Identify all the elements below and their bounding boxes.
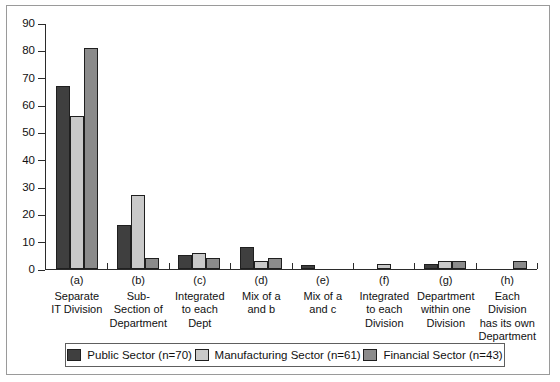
bar: [513, 261, 527, 269]
x-axis-label-code: (f): [354, 274, 416, 288]
y-axis-tick: [38, 242, 45, 243]
y-axis-tick-label: 30: [22, 182, 35, 194]
x-axis-label-line: Integrated: [169, 290, 231, 304]
bar-group: [353, 24, 414, 269]
bar: [452, 261, 466, 269]
x-axis-tick: [537, 263, 538, 269]
bar: [377, 264, 391, 269]
x-axis-label-code: (e): [292, 274, 354, 288]
y-axis-tick-label: 50: [22, 128, 35, 140]
chart-legend: Public Sector (n=70)Manufacturing Sector…: [65, 343, 505, 367]
bar-group: [292, 24, 353, 269]
x-axis-label-line: Each: [477, 290, 539, 304]
x-axis-label-line: Section of: [108, 303, 170, 317]
bar: [145, 258, 159, 269]
y-axis-tick-label: 20: [22, 210, 35, 222]
x-axis-label-line: to each: [354, 303, 416, 317]
y-axis-tick: [38, 24, 45, 25]
x-axis-label-code: (c): [169, 274, 231, 288]
legend-swatch: [195, 349, 209, 361]
x-axis-tick: [107, 263, 108, 269]
y-axis-tick: [38, 106, 45, 107]
bar: [84, 48, 98, 269]
x-axis-label-line: Department: [477, 330, 539, 344]
y-axis-tick: [38, 78, 45, 79]
x-axis-label-line: Division: [477, 303, 539, 317]
x-axis-tick: [230, 263, 231, 269]
bar-group: [414, 24, 475, 269]
bar-group: [476, 24, 537, 269]
y-axis-tick-label: 90: [22, 18, 35, 30]
legend-swatch: [363, 349, 377, 361]
x-axis-label: (e)Mix of aand c: [292, 274, 354, 344]
y-axis-tick: [38, 215, 45, 216]
x-axis-label-code: (g): [415, 274, 477, 288]
x-axis-labels: (a)SeparateIT Division(b)Sub-Section ofD…: [46, 274, 538, 344]
legend-label: Manufacturing Sector (n=61): [215, 349, 361, 361]
x-axis-label-line: IT Division: [46, 303, 108, 317]
plot-area: 0102030405060708090: [45, 24, 537, 270]
legend-item: Public Sector (n=70): [67, 349, 192, 361]
legend-item: Manufacturing Sector (n=61): [195, 349, 361, 361]
x-axis-label-code: (b): [108, 274, 170, 288]
x-axis-tick: [476, 263, 477, 269]
x-axis-label-line: Mix of a: [292, 290, 354, 304]
x-axis-label: (c)Integratedto eachDept: [169, 274, 231, 344]
x-axis-label-code: (a): [46, 274, 108, 288]
chart-frame: 0102030405060708090 (a)SeparateIT Divisi…: [6, 5, 550, 375]
legend-item: Financial Sector (n=43): [363, 349, 502, 361]
x-axis-tick: [292, 263, 293, 269]
legend-swatch: [67, 349, 81, 361]
y-axis-tick-label: 60: [22, 100, 35, 112]
y-axis-tick-label: 10: [22, 237, 35, 249]
bar: [438, 261, 452, 269]
x-axis-label-line: and b: [231, 303, 293, 317]
bar: [178, 255, 192, 269]
x-axis-tick: [353, 263, 354, 269]
y-axis-tick: [38, 188, 45, 189]
bar: [240, 247, 254, 269]
x-axis-label-line: Separate: [46, 290, 108, 304]
bar: [131, 195, 145, 269]
y-axis-tick: [38, 51, 45, 52]
x-axis-label-line: Integrated: [354, 290, 416, 304]
bar-group: [46, 24, 107, 269]
bar: [254, 261, 268, 269]
x-axis-label-line: Department: [108, 317, 170, 331]
x-axis-label: (d)Mix of aand b: [231, 274, 293, 344]
legend-label: Financial Sector (n=43): [383, 349, 502, 361]
bar: [424, 264, 438, 269]
x-axis-label-line: Department: [415, 290, 477, 304]
x-axis-label-line: within one: [415, 303, 477, 317]
bar: [192, 253, 206, 269]
x-axis-tick: [414, 263, 415, 269]
bar-groups: [46, 24, 537, 269]
x-axis-label-line: Dept: [169, 317, 231, 331]
x-axis-tick: [169, 263, 170, 269]
bar-group: [169, 24, 230, 269]
y-axis-tick-label: 80: [22, 46, 35, 58]
x-axis-label-line: Mix of a: [231, 290, 293, 304]
x-axis-label-line: and c: [292, 303, 354, 317]
bar: [301, 265, 315, 269]
bar-group: [107, 24, 168, 269]
bar: [56, 86, 70, 269]
x-axis-label-line: Division: [415, 317, 477, 331]
y-axis-tick-label: 40: [22, 155, 35, 167]
y-axis-tick-label: 0: [29, 264, 35, 276]
bar: [70, 116, 84, 269]
bar-group: [230, 24, 291, 269]
y-axis-tick: [38, 160, 45, 161]
x-axis-label: (g)Departmentwithin oneDivision: [415, 274, 477, 344]
bar: [117, 225, 131, 269]
y-axis-tick: [38, 133, 45, 134]
x-axis-label: (h)EachDivisionhas its ownDepartment: [477, 274, 539, 344]
x-axis-label-line: Sub-: [108, 290, 170, 304]
legend-label: Public Sector (n=70): [87, 349, 192, 361]
x-axis-label-code: (d): [231, 274, 293, 288]
x-axis-label: (f)Integratedto eachDivision: [354, 274, 416, 344]
x-axis-label: (a)SeparateIT Division: [46, 274, 108, 344]
bar: [268, 258, 282, 269]
y-axis-tick-label: 70: [22, 73, 35, 85]
x-axis-label-line: to each: [169, 303, 231, 317]
